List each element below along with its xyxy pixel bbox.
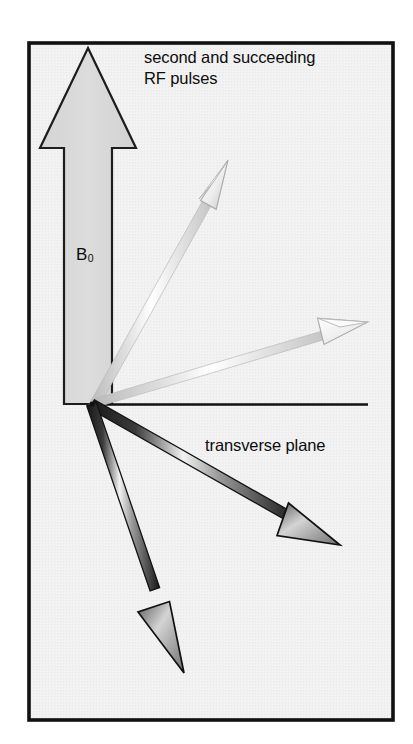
rf-pulses-line1: second and succeeding xyxy=(144,48,315,66)
diagram-canvas xyxy=(0,0,413,744)
figure-root: second and succeedingRF pulses B0 transv… xyxy=(0,0,413,744)
transverse-plane-label: transverse plane xyxy=(205,436,325,455)
b0-label: B0 xyxy=(76,245,93,265)
b0-label-subscript: 0 xyxy=(88,252,94,264)
b0-label-base: B xyxy=(76,245,87,264)
rf-pulses-line2: RF pulses xyxy=(144,69,217,87)
origin-point xyxy=(89,401,94,406)
rf-pulses-label: second and succeedingRF pulses xyxy=(144,47,315,89)
